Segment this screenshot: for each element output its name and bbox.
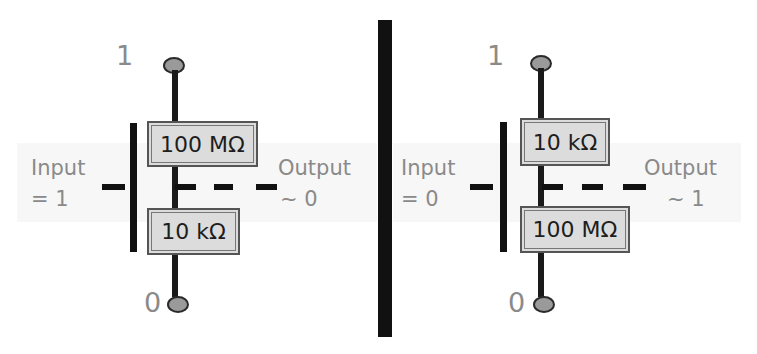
wire-top	[172, 70, 178, 122]
pull-down-resistor: 10 kΩ	[147, 208, 240, 255]
pull-down-resistor-value: 10 kΩ	[161, 219, 226, 244]
output-dash	[175, 184, 196, 190]
output-value: ~ 1	[667, 187, 705, 211]
supply-rail-label: 1	[487, 42, 504, 70]
supply-rail-label: 1	[116, 42, 133, 70]
input-label: Input	[401, 156, 455, 180]
output-dash	[542, 184, 563, 190]
output-dash	[582, 184, 603, 190]
circuit-panel-input-0: 1 0 10 kΩ 100 MΩ Input = 0 Output ~ 1	[377, 0, 757, 354]
output-dash	[623, 184, 646, 190]
output-label: Output	[278, 156, 351, 180]
ground-rail-label: 0	[144, 289, 161, 317]
ground-rail-label: 0	[508, 289, 525, 317]
wire-top	[538, 68, 544, 120]
gate-bar	[500, 122, 507, 252]
input-label: Input	[31, 156, 85, 180]
output-dash	[214, 184, 233, 190]
ground-terminal-icon	[167, 296, 189, 313]
pull-up-resistor-value: 10 kΩ	[533, 130, 598, 155]
output-label: Output	[644, 156, 717, 180]
wire-bottom	[172, 255, 178, 297]
input-value: = 1	[31, 187, 69, 211]
output-dash	[256, 184, 277, 190]
input-value: = 0	[401, 187, 439, 211]
circuit-panel-input-1: 1 0 100 MΩ 10 kΩ Input = 1 Output ~ 0	[0, 0, 378, 354]
pull-down-resistor-value: 100 MΩ	[533, 217, 618, 242]
pull-down-resistor: 100 MΩ	[520, 206, 630, 253]
ground-terminal-icon	[533, 296, 555, 313]
input-stub	[102, 184, 125, 190]
wire-bottom	[538, 253, 544, 297]
output-value: ~ 0	[280, 187, 318, 211]
pull-up-resistor: 10 kΩ	[520, 118, 610, 166]
input-stub	[470, 184, 493, 190]
gate-bar	[130, 123, 137, 252]
pull-up-resistor: 100 MΩ	[147, 121, 258, 167]
pull-up-resistor-value: 100 MΩ	[160, 132, 245, 157]
